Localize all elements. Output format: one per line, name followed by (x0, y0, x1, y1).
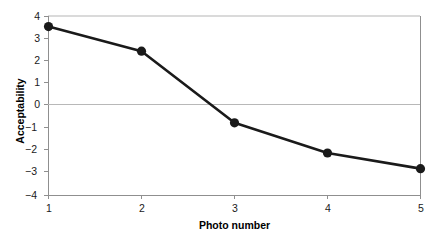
y-tick-label-3: 3 (18, 33, 40, 44)
x-tick-label-1: 1 (38, 203, 60, 214)
data-point-1 (44, 22, 53, 31)
y-axis-title: Acceptability (14, 51, 26, 171)
x-tick-label-2: 2 (131, 203, 153, 214)
data-point-5 (416, 164, 425, 173)
line-chart-plot-area (0, 0, 437, 241)
chart-figure: 4 3 2 1 0 −1 −2 −3 −4 1 2 3 4 5 Acceptab… (0, 0, 437, 241)
data-point-markers (44, 22, 425, 173)
data-point-2 (137, 47, 146, 56)
y-tick-label-4: 4 (18, 11, 40, 22)
data-point-3 (230, 118, 239, 127)
y-tick-label-neg4: −4 (15, 190, 37, 201)
x-axis-title: Photo number (48, 219, 421, 231)
x-tick-label-3: 3 (224, 203, 246, 214)
x-tick-label-4: 4 (317, 203, 339, 214)
y-tick-marks (44, 17, 48, 196)
x-tick-label-5: 5 (410, 203, 432, 214)
data-line-acceptability (49, 27, 421, 169)
data-point-4 (323, 148, 332, 157)
